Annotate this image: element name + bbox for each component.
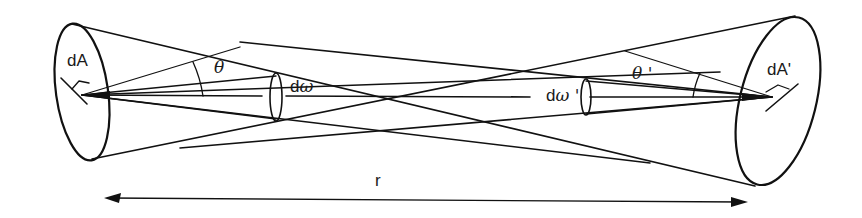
label-d-omega-symbol: ω xyxy=(299,76,313,96)
radiation-geometry-diagram xyxy=(0,0,862,218)
left-solid-angle-lens xyxy=(270,73,282,121)
label-d-omega-prime: dω ' xyxy=(546,87,579,104)
distance-arrow-right-head xyxy=(731,197,748,207)
label-theta: θ xyxy=(214,59,224,76)
left-right-angle-marker xyxy=(72,81,89,89)
inner-cone-left-top xyxy=(82,72,720,95)
distance-arrow-line xyxy=(108,198,742,202)
label-theta-prime: θ ' xyxy=(632,65,652,82)
label-d-omega-prime-symbol: ω ' xyxy=(555,85,579,105)
left-beam-bottom xyxy=(82,95,276,119)
label-r: r xyxy=(375,172,381,189)
right-focal-wedge xyxy=(742,93,772,101)
label-d-omega: dω xyxy=(290,78,313,95)
outer-cone-line-top-left-to-bottom-right xyxy=(72,24,755,186)
inner-cone-right-bottom xyxy=(240,42,772,97)
left-focal-wedge xyxy=(82,91,110,99)
distance-arrow-left-head xyxy=(104,193,121,203)
right-theta-arc xyxy=(693,73,700,97)
label-dA: dA xyxy=(67,52,88,69)
right-right-angle-marker xyxy=(766,85,789,92)
label-dA-prime: dA' xyxy=(767,61,791,78)
axis-line-middle xyxy=(286,96,530,97)
